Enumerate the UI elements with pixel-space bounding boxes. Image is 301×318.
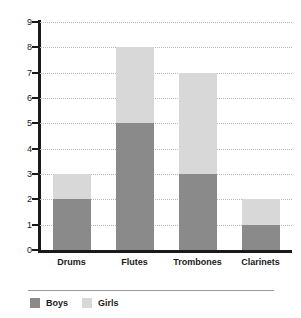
x-axis-baseline — [38, 250, 292, 253]
y-axis-tick — [32, 148, 39, 150]
gridline — [40, 149, 292, 150]
y-axis-tick — [32, 173, 39, 175]
gridline — [40, 98, 292, 99]
y-axis-tick-label: 8 — [8, 43, 32, 52]
gridline — [40, 47, 292, 48]
y-axis-tick — [32, 46, 39, 48]
y-axis-tick-label: 4 — [8, 145, 32, 154]
chart-legend: BoysGirls — [30, 298, 119, 308]
bar-group[interactable] — [179, 73, 217, 250]
y-axis-tick — [32, 72, 39, 74]
bar-group[interactable] — [116, 47, 154, 250]
bar-segment-boys[interactable] — [179, 174, 217, 250]
y-axis-tick — [32, 122, 39, 124]
bar-segment-girls[interactable] — [179, 73, 217, 174]
legend-label: Girls — [98, 299, 119, 308]
y-axis-tick — [32, 198, 39, 200]
bar-segment-girls[interactable] — [116, 47, 154, 123]
bar-segment-boys[interactable] — [242, 225, 280, 250]
gridline — [40, 22, 292, 23]
stacked-bar-chart: 0123456789 DrumsFlutesTrombonesClarinets… — [0, 0, 300, 318]
legend-swatch-icon — [82, 298, 92, 308]
bar-segment-girls[interactable] — [53, 174, 91, 199]
gridline — [40, 123, 292, 124]
legend-item[interactable]: Girls — [82, 298, 119, 308]
bar-segment-boys[interactable] — [53, 199, 91, 250]
y-axis-tick — [32, 21, 39, 23]
y-axis-tick-label: 1 — [8, 221, 32, 230]
y-axis-tick-label: 3 — [8, 170, 32, 179]
legend-divider — [28, 290, 274, 291]
y-axis-tick-label: 9 — [8, 18, 32, 27]
bar-segment-girls[interactable] — [242, 199, 280, 224]
x-axis-category-label: Clarinets — [221, 258, 301, 267]
y-axis-tick — [32, 224, 39, 226]
legend-item[interactable]: Boys — [30, 298, 68, 308]
bar-segment-boys[interactable] — [116, 123, 154, 250]
y-axis-tick-label: 0 — [8, 246, 32, 255]
y-axis-tick-label: 6 — [8, 94, 32, 103]
plot-area — [40, 22, 292, 250]
y-axis-tick-label: 2 — [8, 195, 32, 204]
legend-label: Boys — [46, 299, 68, 308]
y-axis-tick-label: 5 — [8, 119, 32, 128]
gridline — [40, 73, 292, 74]
bar-group[interactable] — [242, 199, 280, 250]
y-axis-tick — [32, 97, 39, 99]
legend-swatch-icon — [30, 298, 40, 308]
y-axis-tick-label: 7 — [8, 69, 32, 78]
bar-group[interactable] — [53, 174, 91, 250]
